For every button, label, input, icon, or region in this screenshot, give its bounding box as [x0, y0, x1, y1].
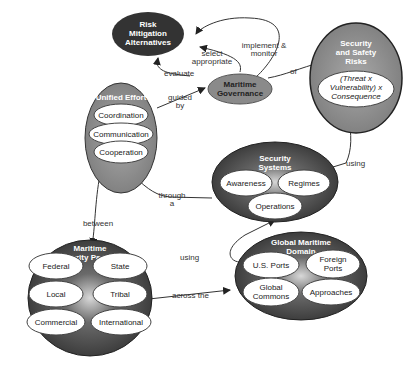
formula-text: Consequence [331, 92, 381, 101]
item-tribal: Tribal [110, 290, 130, 299]
node-title: Risk [140, 20, 157, 29]
label-using: using [180, 253, 199, 262]
node-title: Unified Effort [96, 93, 147, 102]
item-cooperation: Cooperation [99, 148, 143, 157]
label-guided: by [176, 101, 184, 110]
item-commercial: Commercial [35, 318, 78, 327]
concept-map: Risk Mitigation Alternatives Maritime Go… [0, 0, 410, 366]
item-local: Local [46, 290, 65, 299]
node-maritime-governance[interactable]: Maritime Governance [208, 74, 272, 104]
item-approaches: Approaches [310, 288, 353, 297]
label-of: of [290, 67, 297, 76]
node-title: Security [259, 154, 291, 163]
item-foreign-ports: Foreign [319, 255, 346, 264]
item-operations: Operations [255, 202, 294, 211]
node-title: Governance [217, 89, 264, 98]
node-title: Security [340, 39, 372, 48]
node-title: Maritime [74, 244, 107, 253]
item-international: International [99, 318, 143, 327]
node-title: and Safety [336, 48, 377, 57]
node-security-risks[interactable]: Security and Safety Risks (Threat x Vuln… [310, 23, 402, 133]
label-through: a [170, 199, 175, 208]
node-title: Domain [286, 247, 315, 256]
item-awareness: Awareness [226, 179, 265, 188]
node-risk-mitigation[interactable]: Risk Mitigation Alternatives [112, 12, 184, 56]
label-using: using [346, 159, 365, 168]
node-maritime-security-partners[interactable]: Maritime Security Partners Federal State… [27, 240, 152, 356]
node-unified-effort[interactable]: Unified Effort Coordination Communicatio… [85, 83, 157, 193]
node-security-systems[interactable]: Security Systems Awareness Regimes Opera… [212, 142, 338, 222]
label-between: between [83, 219, 113, 228]
item-state: State [111, 262, 130, 271]
node-title: Maritime [224, 80, 257, 89]
label-select: appropriate [192, 57, 233, 66]
label-across: across the [172, 291, 209, 300]
label-implement: monitor [251, 49, 278, 58]
node-title: Systems [259, 163, 292, 172]
node-title: Risks [345, 57, 367, 66]
item-coordination: Coordination [98, 111, 143, 120]
label-evaluate: evaluate [164, 69, 195, 78]
item-us-ports: U.S. Ports [253, 261, 289, 270]
item-regimes: Regimes [288, 179, 320, 188]
node-title: Global Maritime [271, 238, 332, 247]
formula-text: (Threat x [340, 74, 373, 83]
item-foreign-ports: Ports [324, 264, 343, 273]
formula-text: Vulnerability) x [330, 83, 383, 92]
node-title: Mitigation [129, 29, 167, 38]
item-global-commons: Global [259, 283, 282, 292]
item-communication: Communication [93, 130, 149, 139]
link-between [92, 175, 100, 245]
item-federal: Federal [42, 262, 69, 271]
node-global-maritime-domain[interactable]: Global Maritime Domain U.S. Ports Foreig… [235, 232, 367, 320]
item-global-commons: Commons [253, 292, 289, 301]
node-title: Alternatives [125, 38, 171, 47]
